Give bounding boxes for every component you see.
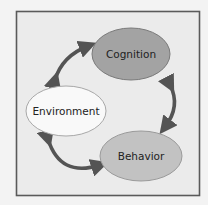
- node-environment: Environment: [26, 86, 106, 136]
- node-cognition: Cognition: [92, 28, 170, 80]
- node-behavior: Behavior: [100, 131, 182, 181]
- reciprocal-diagram: Cognition Environment Behavior: [0, 0, 208, 205]
- node-label-environment: Environment: [32, 105, 99, 117]
- node-label-cognition: Cognition: [106, 48, 156, 60]
- node-label-behavior: Behavior: [118, 150, 165, 162]
